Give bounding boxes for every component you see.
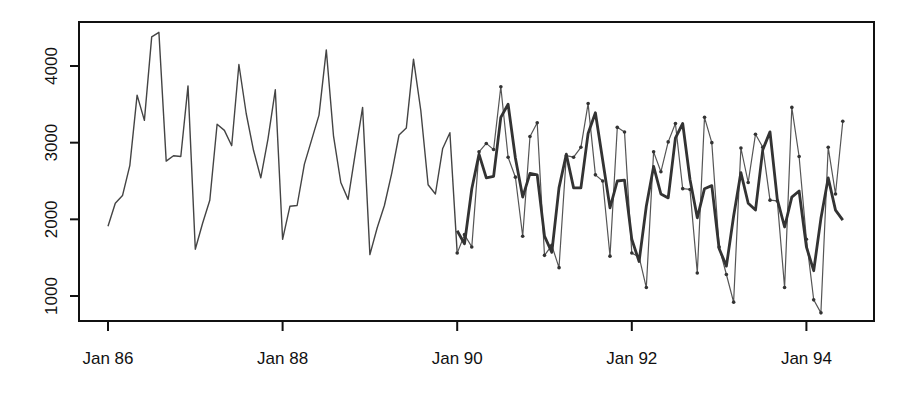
y-tick-label: 2000 [42, 200, 61, 238]
data-point-marker [819, 311, 823, 315]
data-point-marker [594, 173, 598, 177]
data-point-marker [783, 286, 787, 290]
data-point-marker [615, 126, 619, 130]
x-tick-label: Jan 90 [432, 349, 483, 368]
x-tick-label: Jan 86 [82, 349, 133, 368]
data-point-marker [725, 273, 729, 277]
data-point-marker [572, 155, 576, 159]
y-tick-label: 4000 [42, 47, 61, 85]
data-point-marker [514, 175, 518, 179]
data-point-marker [506, 155, 510, 159]
data-point-marker [826, 145, 830, 149]
data-point-marker [470, 245, 474, 249]
data-point-marker [499, 85, 503, 89]
data-point-marker [557, 266, 561, 270]
y-tick-label: 3000 [42, 124, 61, 162]
data-point-marker [674, 122, 678, 126]
data-point-marker [739, 146, 743, 150]
history-line [108, 32, 457, 254]
data-point-marker [623, 130, 627, 134]
data-point-marker [790, 106, 794, 110]
x-tick-label: Jan 88 [257, 349, 308, 368]
data-point-marker [521, 234, 525, 238]
data-point-marker [681, 187, 685, 191]
data-point-marker [455, 251, 459, 255]
data-point-marker [492, 148, 496, 152]
data-point-marker [666, 140, 670, 144]
data-point-marker [812, 298, 816, 302]
y-axis: 1000200030004000 [42, 47, 79, 315]
x-tick-label: Jan 94 [781, 349, 832, 368]
data-point-marker [768, 198, 772, 202]
time-series-chart: 1000200030004000 Jan 86Jan 88Jan 90Jan 9… [0, 0, 904, 394]
y-tick-label: 1000 [42, 277, 61, 315]
data-point-marker [579, 145, 583, 149]
data-point-marker [485, 142, 489, 146]
x-axis: Jan 86Jan 88Jan 90Jan 92Jan 94 [82, 321, 831, 368]
series-layer [108, 32, 845, 314]
data-point-marker [659, 170, 663, 174]
data-point-marker [630, 251, 634, 255]
data-point-marker [754, 132, 758, 136]
data-point-marker [645, 286, 649, 290]
data-point-marker [841, 119, 845, 123]
data-point-marker [586, 102, 590, 106]
data-point-marker [797, 155, 801, 159]
data-point-marker [695, 271, 699, 275]
data-point-marker [543, 254, 547, 258]
test-line [457, 87, 843, 313]
data-point-marker [834, 192, 838, 196]
x-tick-label: Jan 92 [606, 349, 657, 368]
data-point-marker [608, 254, 612, 258]
forecast-line [457, 104, 843, 270]
data-point-marker [746, 181, 750, 185]
data-point-marker [535, 121, 539, 125]
data-point-marker [710, 141, 714, 145]
data-point-marker [601, 179, 605, 183]
data-point-marker [652, 150, 656, 154]
data-point-marker [528, 135, 532, 139]
data-point-marker [703, 116, 707, 120]
data-point-marker [732, 300, 736, 304]
